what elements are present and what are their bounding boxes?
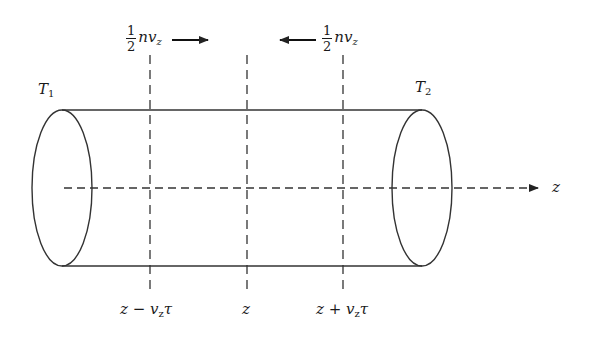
- position-label-z: z: [242, 302, 250, 317]
- position-label-z-minus: z − vzτ: [120, 302, 172, 319]
- position-label-z-plus: z + vzτ: [316, 302, 368, 319]
- flux-label-left: 12 nvz: [126, 24, 162, 53]
- temperature-label-t2: T2: [415, 80, 431, 97]
- temperature-label-t1: T1: [38, 82, 54, 99]
- flux-label-right: 12 nvz: [322, 24, 358, 53]
- cylinder-diagram: [0, 0, 592, 337]
- z-axis-label: z: [552, 180, 560, 195]
